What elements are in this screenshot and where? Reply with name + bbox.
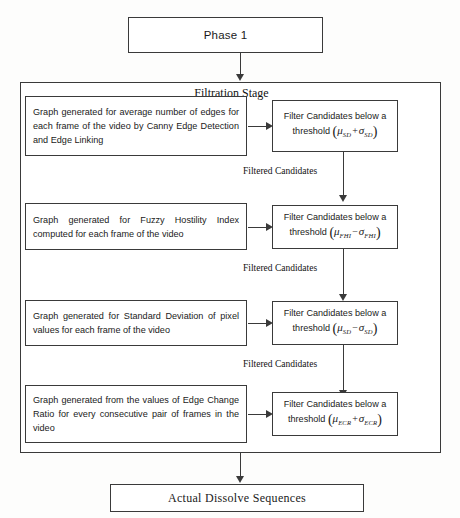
- connector-phase-to-stage: [240, 53, 241, 75]
- operator-symbol: −: [351, 322, 359, 333]
- connector-filter-2-to-3: [343, 249, 344, 295]
- sigma-subscript: ECR: [364, 419, 377, 426]
- connector-desc-to-filter-3: [248, 323, 268, 324]
- filter-box-sd-minus: Filter Candidates below a threshold (μSD…: [272, 301, 398, 345]
- mu-subscript: SD: [343, 131, 351, 138]
- operator-symbol: +: [351, 125, 359, 136]
- description-text: Graph generated for Fuzzy Hostility Inde…: [33, 213, 239, 241]
- description-text: Graph generated for Standard Deviation o…: [33, 309, 239, 337]
- paren-close: ): [377, 412, 382, 427]
- edge-label-filtered-candidates-2: Filtered Candidates: [243, 263, 317, 273]
- description-box-edges: Graph generated for average number of ed…: [25, 96, 247, 156]
- flowchart-canvas: Phase 1 Filtration Stage Graph generated…: [0, 0, 460, 518]
- paren-close: ): [373, 321, 378, 336]
- filter-threshold-expression: threshold (μECR+σECR): [288, 411, 382, 430]
- filter-box-sd-plus: Filter Candidates below a threshold (μSD…: [272, 100, 398, 152]
- sigma-subscript: SD: [364, 131, 372, 138]
- connector-stage-to-final: [240, 453, 241, 477]
- filter-label-line1: Filter Candidates below a: [284, 110, 387, 123]
- arrowhead-filter-1-to-2: [339, 195, 347, 202]
- filter-label-line1: Filter Candidates below a: [284, 307, 387, 320]
- actual-dissolve-sequences-label: Actual Dissolve Sequences: [168, 491, 306, 506]
- edge-label-filtered-candidates-1: Filtered Candidates: [243, 166, 317, 176]
- description-text: Graph generated from the values of Edge …: [33, 393, 239, 435]
- filter-box-ecr-plus: Filter Candidates below a threshold (μEC…: [272, 392, 398, 436]
- arrowhead-stage-to-final: [236, 476, 244, 483]
- sigma-subscript: SD: [364, 328, 372, 335]
- operator-symbol: −: [351, 226, 359, 237]
- threshold-prefix: threshold: [293, 126, 330, 136]
- filter-label-line1: Filter Candidates below a: [284, 398, 387, 411]
- connector-desc-to-filter-2: [248, 227, 268, 228]
- threshold-prefix: threshold: [293, 323, 330, 333]
- filter-label-line1: Filter Candidates below a: [284, 211, 387, 224]
- paren-close: ): [376, 225, 381, 240]
- phase-1-label: Phase 1: [204, 29, 248, 41]
- description-text: Graph generated for average number of ed…: [33, 105, 239, 147]
- sigma-subscript: FHI: [364, 232, 376, 239]
- threshold-prefix: threshold: [289, 227, 326, 237]
- phase-1-box: Phase 1: [128, 17, 323, 53]
- connector-desc-to-filter-4: [248, 414, 268, 415]
- connector-filter-1-to-2: [343, 152, 344, 196]
- filter-threshold-expression: threshold (μSD+σSD): [293, 123, 378, 142]
- arrowhead-phase-to-stage: [236, 74, 244, 81]
- description-box-std-dev: Graph generated for Standard Deviation o…: [25, 300, 247, 346]
- mu-subscript: FHI: [340, 232, 352, 239]
- connector-filter-3-to-4: [343, 345, 344, 391]
- connector-desc-to-filter-1: [248, 126, 268, 127]
- filter-threshold-expression: threshold (μSD−σSD): [293, 320, 378, 339]
- operator-symbol: +: [351, 413, 359, 424]
- description-box-fhi: Graph generated for Fuzzy Hostility Inde…: [25, 203, 247, 250]
- filter-threshold-expression: threshold (μFHI−σFHI): [289, 224, 380, 243]
- mu-subscript: ECR: [338, 419, 351, 426]
- arrowhead-filter-2-to-3: [339, 294, 347, 301]
- filter-box-fhi-minus: Filter Candidates below a threshold (μFH…: [272, 205, 398, 249]
- mu-subscript: SD: [343, 328, 351, 335]
- paren-close: ): [373, 124, 378, 139]
- actual-dissolve-sequences-box: Actual Dissolve Sequences: [110, 484, 364, 512]
- threshold-prefix: threshold: [288, 414, 325, 424]
- description-box-ecr: Graph generated from the values of Edge …: [25, 385, 247, 443]
- edge-label-filtered-candidates-3: Filtered Candidates: [243, 359, 317, 369]
